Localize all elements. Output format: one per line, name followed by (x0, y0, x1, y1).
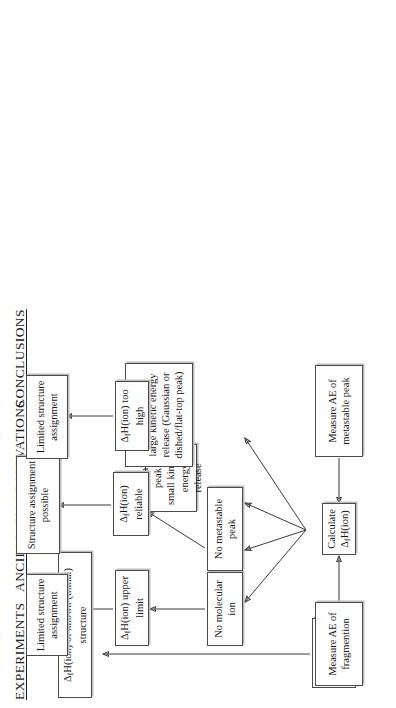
box-no-molecular-ion[interactable]: No molecular ion (207, 572, 243, 646)
box-measure-ae-metastable-peak[interactable]: Measure AE ofmetastable peak (315, 365, 363, 457)
arrow-calculate-to-metastable-small-ker (245, 503, 306, 530)
box-dfh-ion-reliable[interactable]: ΔfH(ion) reliable (113, 472, 149, 536)
box-limited-structure-assignment-1-label: Limited structureassignment (34, 578, 60, 652)
box-dfh-ion-reliable-label: ΔfH(ion) reliable (117, 476, 144, 532)
box-calculate-dfh-ion-label: Calculate ΔfH(ion) (325, 507, 352, 551)
arrow-calculate-to-metastable-large-ker (245, 438, 306, 530)
box-structure-assignment-possible-label: Structure assignmentpossible (25, 460, 51, 550)
box-measure-ae-fragmention-label: Measure AE offragmention (326, 606, 352, 682)
box-dfh-ion-upper-limit[interactable]: ΔfH(ion) upper limit (115, 570, 149, 646)
box-no-molecular-ion-label: No molecular ion (212, 576, 238, 642)
box-dfh-ion-upper-limit-label: ΔfH(ion) upper limit (118, 574, 145, 642)
box-limited-structure-assignment-2-label: Limited structureassignment (34, 379, 60, 455)
arrow-calculate-to-no-molecular-ion (245, 530, 306, 602)
box-calculate-dfh-ion[interactable]: Calculate ΔfH(ion) (322, 503, 356, 555)
box-limited-structure-assignment-2[interactable]: Limited structureassignment (26, 375, 68, 459)
box-measure-ae-metastable-peak-label: Measure AE ofmetastable peak (326, 369, 352, 453)
arrow-calculate-to-no-metastable-peak (245, 530, 306, 550)
box-measure-ae-fragmention[interactable]: Measure AE offragmention (315, 602, 363, 686)
box-no-metastable-peak[interactable]: No metastable peak (207, 487, 243, 571)
box-limited-structure-assignment-1[interactable]: Limited structureassignment (26, 574, 68, 656)
diagram-rotation-wrapper: EXPERIMENTS ANCILLIARY OBSERVATIONS CONC… (0, 0, 396, 708)
arrow-no-metastable-peak-to-reliable (148, 512, 205, 548)
box-no-metastable-peak-label: No metastable peak (212, 491, 238, 567)
flowchart-canvas: EXPERIMENTS ANCILLIARY OBSERVATIONS CONC… (0, 0, 396, 708)
box-dfh-ion-too-high[interactable]: ΔfH(ion) too high (115, 381, 149, 451)
box-dfh-ion-too-high-label: ΔfH(ion) too high (118, 385, 145, 447)
box-structure-assignment-possible[interactable]: Structure assignmentpossible (16, 456, 60, 554)
